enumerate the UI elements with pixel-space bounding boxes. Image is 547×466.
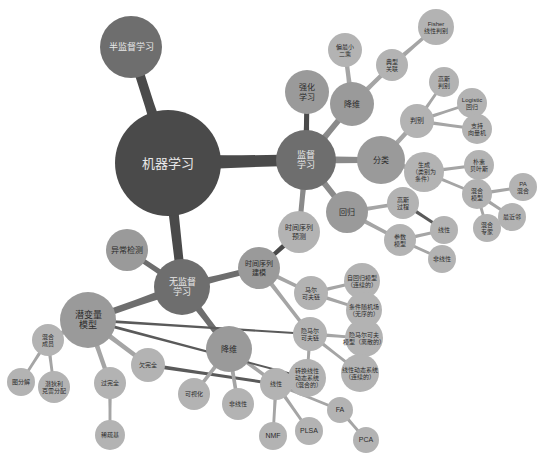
node-nonlinear_r[interactable]: 非线性 — [428, 245, 456, 273]
node-circle-moe[interactable] — [473, 214, 501, 242]
node-circle-linear_d[interactable] — [260, 368, 292, 400]
node-sparsebasis[interactable]: 稀疏基 — [95, 420, 125, 450]
node-circle-lds[interactable] — [341, 354, 379, 392]
node-hmm[interactable]: 隐马尔可夫模型（离散的） — [343, 319, 385, 357]
node-circle-latent[interactable] — [60, 292, 116, 348]
node-circle-fisher[interactable] — [418, 9, 454, 45]
node-circle-ml[interactable] — [115, 110, 221, 216]
node-circle-rl[interactable] — [285, 70, 329, 114]
node-circle-slds[interactable] — [288, 359, 326, 397]
node-svm[interactable]: 支持向量机 — [462, 114, 492, 144]
node-undercomplete[interactable]: 欠完全 — [131, 348, 165, 382]
node-circle-visualize[interactable] — [178, 378, 210, 410]
node-circle-overcomplete[interactable] — [94, 367, 126, 399]
node-circle-tsmodel[interactable] — [238, 247, 280, 289]
node-circle-pamix[interactable] — [509, 173, 537, 201]
node-circle-graphfac[interactable] — [7, 368, 35, 396]
node-fisher[interactable]: Fisher线性判别 — [418, 9, 454, 45]
node-param[interactable]: 参数模型 — [384, 224, 416, 256]
node-dimred_un[interactable]: 降维 — [206, 326, 252, 372]
node-nonlinear_d[interactable]: 非线性 — [222, 388, 254, 420]
node-circle-semi[interactable] — [100, 16, 162, 78]
node-circle-linear_r[interactable] — [430, 216, 458, 244]
node-tsforecast[interactable]: 时间序列预测 — [278, 211, 320, 253]
node-circle-anomaly[interactable] — [106, 229, 148, 271]
node-circle-mixmodel[interactable] — [462, 179, 492, 209]
node-anomaly[interactable]: 异常检测 — [106, 229, 148, 271]
node-circle-undercomplete[interactable] — [131, 348, 165, 382]
node-gauss_disc[interactable]: 高斯判别 — [429, 67, 459, 97]
node-circle-param[interactable] — [384, 224, 416, 256]
node-linear_d[interactable]: 线性 — [260, 368, 292, 400]
node-circle-pca[interactable] — [353, 427, 379, 453]
node-classify[interactable]: 分类 — [357, 136, 405, 184]
node-circle-nmf[interactable] — [259, 422, 287, 450]
node-circle-discrim[interactable] — [400, 104, 434, 138]
node-circle-generate[interactable] — [404, 152, 444, 192]
node-circle-sup[interactable] — [276, 130, 336, 190]
node-ml[interactable]: 机器学习 — [115, 110, 221, 216]
node-mixmodel[interactable]: 混合模型 — [462, 179, 492, 209]
node-latent[interactable]: 潜变量模型 — [60, 292, 116, 348]
node-nearest[interactable]: 最近邻 — [498, 203, 526, 231]
node-tsmodel[interactable]: 时间序列建模 — [238, 247, 280, 289]
node-circle-naivebayes[interactable] — [464, 150, 494, 180]
node-markov[interactable]: 马尔可夫链 — [294, 276, 328, 310]
node-circle-gauss_disc[interactable] — [429, 67, 459, 97]
node-gp[interactable]: 高斯过程 — [387, 187, 419, 219]
node-pca[interactable]: PCA — [353, 427, 379, 453]
node-circle-sparsebasis[interactable] — [95, 420, 125, 450]
node-circle-lda[interactable] — [38, 371, 70, 403]
node-circle-dimred_un[interactable] — [206, 326, 252, 372]
node-rl[interactable]: 强化学习 — [285, 70, 329, 114]
node-layer: 机器学习半监督学习监督学习无监督学习强化学习异常检测潜变量模型降维分类回归时间序… — [7, 9, 537, 453]
node-moe[interactable]: 混合专家 — [473, 214, 501, 242]
node-cca[interactable]: 典型关联 — [376, 49, 408, 81]
node-lda[interactable]: 潜狄利克雷分配 — [38, 371, 70, 403]
node-circle-plsa[interactable] — [295, 417, 323, 445]
node-circle-hmm[interactable] — [345, 319, 383, 357]
node-circle-tsforecast[interactable] — [278, 211, 320, 253]
node-discrim[interactable]: 判别 — [400, 104, 434, 138]
node-regress[interactable]: 回归 — [326, 191, 368, 233]
node-lds[interactable]: 线性动态系统（连续的） — [341, 354, 379, 392]
node-circle-fa[interactable] — [327, 397, 353, 423]
node-plsa[interactable]: PLSA — [295, 417, 323, 445]
node-circle-classify[interactable] — [357, 136, 405, 184]
node-pls[interactable]: 偏最小二乘 — [328, 33, 362, 67]
mindmap-canvas: 机器学习半监督学习监督学习无监督学习强化学习异常检测潜变量模型降维分类回归时间序… — [0, 0, 547, 466]
node-mixmember[interactable]: 混合成员 — [32, 324, 64, 356]
node-circle-pls[interactable] — [328, 33, 362, 67]
node-circle-cca[interactable] — [376, 49, 408, 81]
node-slds[interactable]: 转换线性动态系统（混合的） — [288, 359, 326, 397]
node-pamix[interactable]: PA混合 — [509, 173, 537, 201]
node-overcomplete[interactable]: 过完全 — [94, 367, 126, 399]
node-circle-mixmember[interactable] — [32, 324, 64, 356]
node-semi[interactable]: 半监督学习 — [100, 16, 162, 78]
node-dimred_sup[interactable]: 降维 — [330, 82, 374, 126]
node-circle-hiddenmarkov[interactable] — [293, 317, 327, 351]
node-fa[interactable]: FA — [327, 397, 353, 423]
node-naivebayes[interactable]: 朴素贝叶斯 — [464, 150, 494, 180]
node-hiddenmarkov[interactable]: 隐马尔可夫链 — [293, 317, 327, 351]
node-visualize[interactable]: 可视化 — [178, 378, 210, 410]
node-linear_r[interactable]: 线性 — [430, 216, 458, 244]
node-circle-logistic[interactable] — [457, 88, 487, 118]
edge-latent-to-hiddenmarkov — [88, 319, 310, 336]
node-circle-nonlinear_d[interactable] — [222, 388, 254, 420]
node-circle-svm[interactable] — [462, 114, 492, 144]
node-circle-gp[interactable] — [387, 187, 419, 219]
node-circle-unsup[interactable] — [154, 259, 210, 315]
node-nmf[interactable]: NMF — [259, 422, 287, 450]
node-circle-dimred_sup[interactable] — [330, 82, 374, 126]
node-graphfac[interactable]: 图分解 — [7, 368, 35, 396]
mindmap-graph: 机器学习半监督学习监督学习无监督学习强化学习异常检测潜变量模型降维分类回归时间序… — [0, 0, 547, 466]
node-circle-regress[interactable] — [326, 191, 368, 233]
node-circle-nonlinear_r[interactable] — [428, 245, 456, 273]
node-circle-markov[interactable] — [294, 276, 328, 310]
node-generate[interactable]: 生成（类别为条件） — [404, 152, 444, 192]
node-sup[interactable]: 监督学习 — [276, 130, 336, 190]
node-unsup[interactable]: 无监督学习 — [154, 259, 210, 315]
node-circle-nearest[interactable] — [498, 203, 526, 231]
node-logistic[interactable]: Logistic回归 — [457, 88, 487, 118]
